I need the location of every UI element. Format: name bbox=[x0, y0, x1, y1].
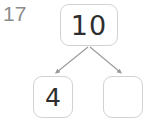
connector-line-right bbox=[90, 47, 120, 72]
number-bond-total-value: 10 bbox=[71, 12, 107, 39]
number-bond-part-right-box[interactable] bbox=[103, 76, 143, 118]
connector-line-left bbox=[57, 47, 88, 72]
number-bond-part-left-value: 4 bbox=[45, 85, 61, 110]
question-number: 17 bbox=[3, 2, 26, 25]
number-bond-total-box[interactable]: 10 bbox=[60, 4, 118, 46]
worksheet-number-bond-item: 17 10 4 bbox=[0, 0, 146, 120]
number-bond-part-left-box[interactable]: 4 bbox=[33, 76, 73, 118]
